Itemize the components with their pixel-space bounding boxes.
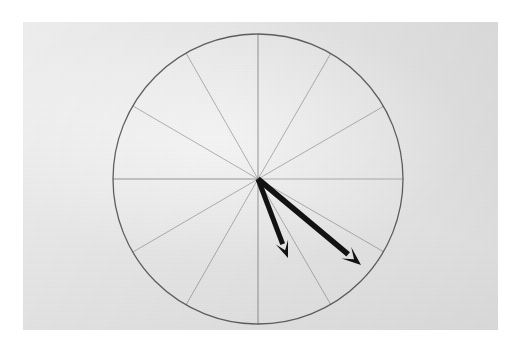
spoke-150deg [133,106,258,179]
spoke-330deg [258,179,384,252]
spoke-210deg [133,179,258,252]
circle-sector-diagram [0,0,520,352]
spoke-120deg [186,53,258,179]
spoke-30deg [258,106,384,179]
spoke-300deg [258,179,331,305]
spoke-240deg [186,179,258,305]
spoke-60deg [258,53,331,179]
arrows-group [258,179,361,265]
screenshot-root [0,0,520,352]
